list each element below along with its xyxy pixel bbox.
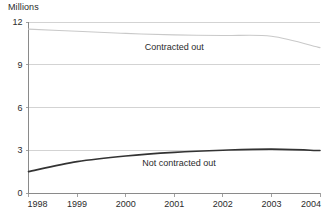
x-tick-label-2002: 2002 bbox=[213, 199, 233, 209]
series-inline-labels: Contracted outNot contracted out bbox=[142, 42, 216, 168]
y-tick-label-12: 12 bbox=[12, 17, 22, 27]
series-label-not-contracted-out: Not contracted out bbox=[142, 158, 216, 168]
x-tick-label-2000: 2000 bbox=[116, 199, 136, 209]
x-tick-label-2004: 2004 bbox=[301, 199, 321, 209]
y-tick-label-0: 0 bbox=[17, 188, 22, 198]
x-tick-label-1998: 1998 bbox=[27, 199, 47, 209]
series-label-contracted-out: Contracted out bbox=[145, 42, 205, 52]
chart-container: Millions 036912 199819992000200120022003… bbox=[0, 0, 327, 223]
x-tick-label-2003: 2003 bbox=[261, 199, 281, 209]
x-axis-tick-marks bbox=[29, 193, 321, 197]
line-chart-plot: 036912 1998199920002001200220032004 Cont… bbox=[0, 0, 327, 223]
x-axis-tick-labels: 1998199920002001200220032004 bbox=[27, 199, 321, 209]
x-tick-label-1999: 1999 bbox=[67, 199, 87, 209]
y-tick-label-9: 9 bbox=[17, 60, 22, 70]
y-tick-label-3: 3 bbox=[17, 145, 22, 155]
y-axis-tick-labels: 036912 bbox=[12, 17, 28, 198]
x-tick-label-2001: 2001 bbox=[164, 199, 184, 209]
y-tick-label-6: 6 bbox=[17, 103, 22, 113]
